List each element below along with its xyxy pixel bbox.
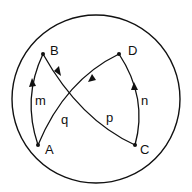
edge-p [43, 54, 135, 145]
node-label-a: A [45, 142, 54, 157]
node-label-d: D [128, 43, 137, 58]
node-d [117, 52, 121, 56]
edge-label-n: n [141, 93, 148, 108]
edge-label-q: q [61, 112, 68, 127]
node-c [133, 143, 137, 147]
node-b [41, 52, 45, 56]
arrow-q-icon [88, 74, 96, 82]
node-label-c: C [140, 142, 149, 157]
edge-label-p: p [106, 110, 113, 125]
node-a [36, 143, 40, 147]
edge-n [119, 54, 139, 145]
diagram-canvas: B D A C m n q p [0, 0, 192, 192]
node-label-b: B [50, 43, 59, 58]
arrow-m-icon [29, 78, 36, 87]
edge-q [38, 54, 119, 145]
edge-label-m: m [35, 93, 46, 108]
arrow-n-icon [131, 82, 138, 90]
